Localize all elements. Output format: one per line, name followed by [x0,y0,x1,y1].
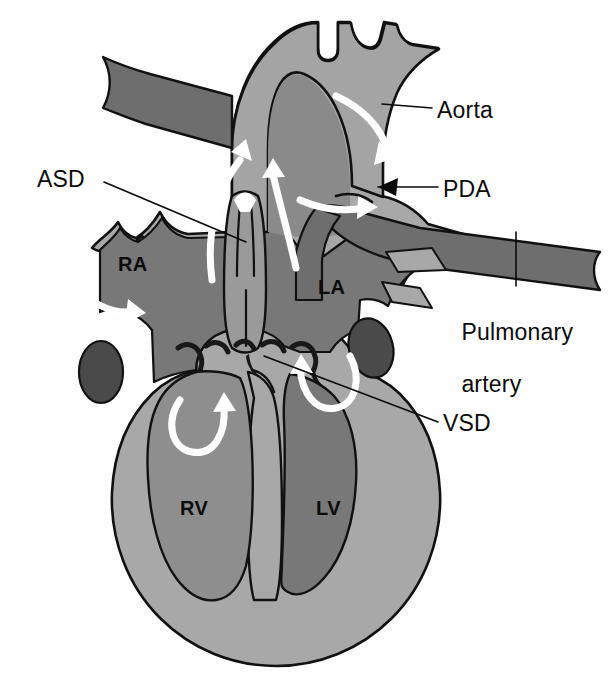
label-pulmonary-artery: Pulmonary artery [435,293,573,423]
label-pulmonary-artery-line2: artery [461,371,521,397]
chamber-label-left-atrium: LA [318,276,345,299]
chamber-label-right-atrium: RA [118,253,148,276]
heart-diagram-figure: Aorta PDA Pulmonary artery VSD ASD RA LA… [0,0,611,678]
label-pulmonary-artery-line1: Pulmonary [461,319,573,345]
label-vsd: VSD [443,410,491,436]
superior-vena-cava [103,57,232,148]
chamber-label-left-ventricle: LV [316,497,341,520]
label-pda: PDA [443,176,491,202]
label-aorta: Aorta [437,97,493,123]
coronary-vessel-right [79,341,123,403]
label-asd: ASD [37,166,85,192]
chamber-label-right-ventricle: RV [180,497,208,520]
